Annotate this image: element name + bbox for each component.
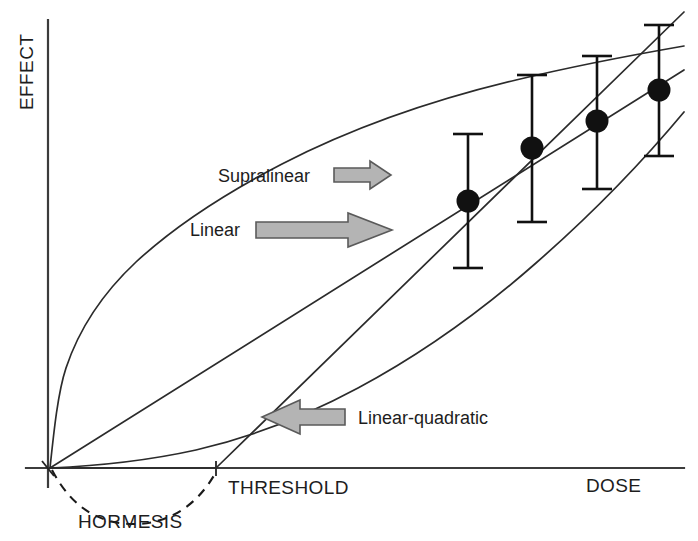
linear-quadratic-arrow-icon [262, 400, 345, 434]
threshold-label: THRESHOLD [228, 477, 349, 498]
dose-response-chart: EFFECT DOSE Supralinear Linear Linear-qu… [0, 0, 698, 541]
linear-arrow-icon [256, 213, 392, 247]
linear-label: Linear [190, 220, 240, 240]
curves-group [50, 12, 684, 524]
data-point-marker-4 [648, 79, 671, 102]
supralinear-label: Supralinear [218, 166, 310, 186]
linear-quadratic-label: Linear-quadratic [358, 408, 488, 428]
data-point-4 [644, 25, 674, 156]
data-point-marker-1 [457, 190, 480, 213]
supralinear-arrow-icon [334, 161, 391, 189]
dose-response-figure: EFFECT DOSE Supralinear Linear Linear-qu… [0, 0, 698, 541]
y-axis-label: EFFECT [16, 34, 37, 110]
data-point-marker-2 [521, 137, 544, 160]
hormesis-label: HORMESIS [78, 511, 183, 532]
curve-supralinear [50, 46, 684, 468]
data-point-3 [582, 56, 612, 189]
axes-group [26, 20, 684, 487]
text-labels-group: EFFECT DOSE Supralinear Linear Linear-qu… [16, 34, 641, 532]
data-point-1 [453, 134, 483, 268]
x-axis-label: DOSE [586, 475, 641, 496]
data-point-2 [517, 75, 547, 222]
data-point-marker-3 [586, 110, 609, 133]
annotation-arrows-group [256, 161, 392, 434]
